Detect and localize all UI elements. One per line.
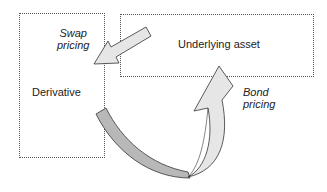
swap-pricing-label: Swap pricing [57,27,89,51]
bond-pricing-line2: pricing [243,98,275,110]
swap-pricing-arrow-icon [94,27,151,64]
diagram-canvas: Derivative Underlying asset Swap pricing… [0,0,327,192]
underlying-asset-label: Underlying asset [178,38,260,50]
bond-pricing-line1: Bond [243,86,275,98]
bond-pricing-arrow-icon [188,66,233,177]
swap-pricing-line1: Swap [57,27,89,39]
swap-pricing-line2: pricing [57,39,89,51]
bond-pricing-label: Bond pricing [243,86,275,110]
derivative-label: Derivative [32,86,81,98]
bond-pricing-ribbon-tail-icon [96,108,190,178]
